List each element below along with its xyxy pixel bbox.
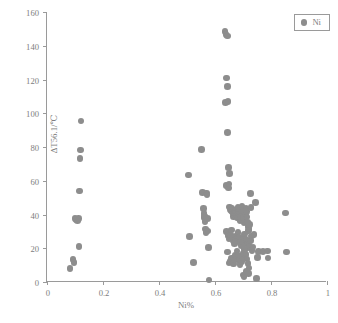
data-point xyxy=(224,129,231,136)
x-axis-tick: 1 xyxy=(327,281,328,285)
y-axis-tick-label: 100 xyxy=(26,110,39,119)
data-points-layer xyxy=(47,12,326,281)
data-point xyxy=(78,118,85,125)
data-point xyxy=(76,188,83,195)
data-point xyxy=(67,265,74,272)
data-point xyxy=(205,228,212,235)
x-axis-tick: 0 xyxy=(47,281,48,285)
data-point xyxy=(77,147,84,154)
y-axis-label: ΔT56.1/℃ xyxy=(49,104,59,164)
y-axis-tick-label: 40 xyxy=(30,211,39,220)
data-point xyxy=(253,275,260,282)
data-point xyxy=(75,215,82,222)
x-axis-tick: 0.4 xyxy=(159,281,160,285)
data-point xyxy=(224,33,231,40)
y-axis-tick-label: 80 xyxy=(30,144,39,153)
scatter-chart-figure: 020406080100120140160 00.20.40.60.81 ΔT5… xyxy=(0,0,338,323)
y-axis-tick-label: 160 xyxy=(26,9,39,18)
data-point xyxy=(283,249,290,256)
data-point xyxy=(246,221,253,228)
y-axis-tick-label: 60 xyxy=(30,177,39,186)
x-axis-label: Ni% xyxy=(46,300,326,310)
data-point xyxy=(251,231,258,238)
data-point xyxy=(225,98,232,105)
data-point xyxy=(245,270,252,277)
y-axis-tick-label: 120 xyxy=(26,76,39,85)
data-point xyxy=(223,75,230,82)
data-point xyxy=(71,259,78,266)
data-point xyxy=(206,277,213,284)
x-axis-tick: 0.2 xyxy=(103,281,104,285)
plot-area: 020406080100120140160 00.20.40.60.81 ΔT5… xyxy=(46,12,326,282)
y-axis-tick-label: 140 xyxy=(26,42,39,51)
data-point xyxy=(185,172,192,179)
y-axis-tick-label: 0 xyxy=(35,279,39,288)
x-axis-tick: 0.8 xyxy=(271,281,272,285)
data-point xyxy=(254,254,261,261)
chart-legend: Ni xyxy=(294,14,330,31)
x-axis-tick: 0.6 xyxy=(215,281,216,285)
data-point xyxy=(198,146,205,153)
data-point xyxy=(204,192,211,199)
x-axis-tick-label: 0.8 xyxy=(267,289,278,298)
data-point xyxy=(77,155,84,162)
data-point xyxy=(190,259,197,266)
data-point xyxy=(186,233,193,240)
legend-marker-icon xyxy=(301,19,308,26)
x-axis-tick-label: 1 xyxy=(326,289,330,298)
x-axis-tick-label: 0.2 xyxy=(99,289,110,298)
data-point xyxy=(226,170,233,177)
data-point xyxy=(224,83,231,90)
data-point xyxy=(76,243,83,250)
data-point xyxy=(248,204,255,211)
legend-label-ni: Ni xyxy=(312,18,321,27)
x-axis-tick-label: 0.6 xyxy=(211,289,222,298)
data-point xyxy=(204,215,211,222)
x-axis-tick-label: 0 xyxy=(46,289,50,298)
data-point xyxy=(247,190,254,197)
x-axis-tick-label: 0.4 xyxy=(155,289,166,298)
data-point xyxy=(265,255,272,262)
data-point xyxy=(282,210,289,217)
y-axis-tick-label: 20 xyxy=(30,245,39,254)
data-point xyxy=(205,244,212,251)
data-point xyxy=(264,248,271,255)
